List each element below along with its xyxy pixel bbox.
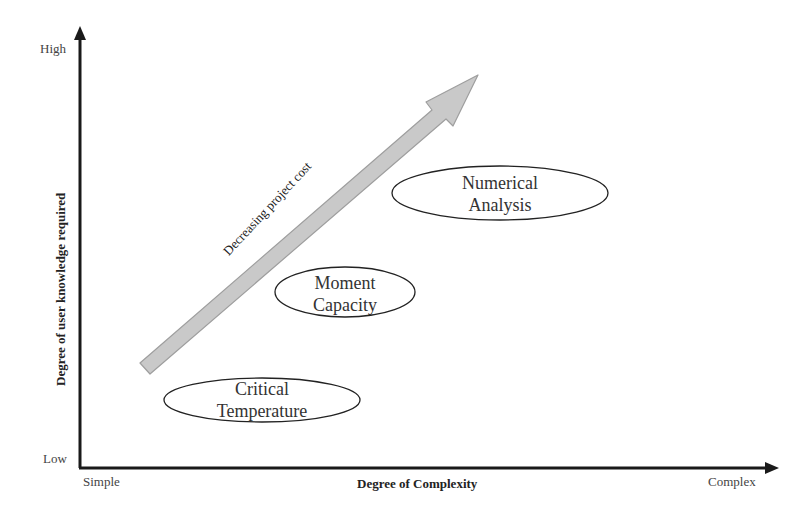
- method-critical-temperature: Critical Temperature: [192, 378, 332, 422]
- y-axis: [74, 26, 86, 468]
- x-axis-simple-label: Simple: [83, 474, 120, 490]
- y-axis-high-label: High: [40, 41, 66, 57]
- diagram-canvas: [0, 0, 811, 519]
- method-line1: Critical: [192, 378, 332, 400]
- x-axis: [79, 462, 779, 474]
- method-moment-capacity: Moment Capacity: [285, 272, 405, 316]
- trend-arrow-icon: [140, 75, 478, 374]
- method-line2: Analysis: [430, 194, 570, 216]
- x-axis-complex-label: Complex: [708, 474, 756, 490]
- y-axis-arrowhead-icon: [74, 26, 86, 40]
- y-axis-low-label: Low: [43, 451, 67, 467]
- x-axis-arrowhead-icon: [765, 462, 779, 474]
- method-line2: Capacity: [285, 294, 405, 316]
- x-axis-title: Degree of Complexity: [357, 476, 477, 492]
- method-line2: Temperature: [192, 400, 332, 422]
- y-axis-title: Degree of user knowledge required: [53, 193, 69, 386]
- method-line1: Moment: [285, 272, 405, 294]
- method-line1: Numerical: [430, 172, 570, 194]
- method-numerical-analysis: Numerical Analysis: [430, 172, 570, 216]
